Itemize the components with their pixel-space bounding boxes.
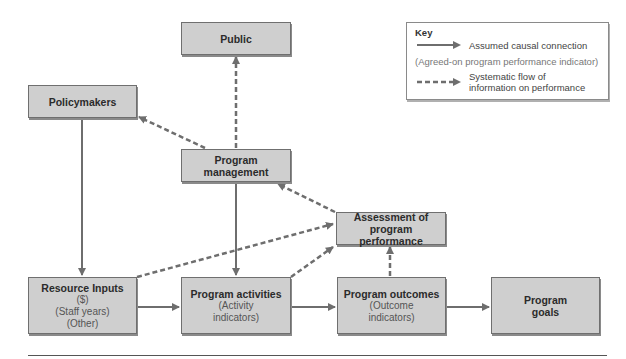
node-activities-title: Program activities xyxy=(190,288,281,300)
node-activities-sub2: indicators) xyxy=(213,312,259,324)
node-assessment: Assessment of program performance xyxy=(336,212,446,245)
dashed-activities-to-assessment xyxy=(291,247,333,277)
node-inputs-sub2: (Staff years) xyxy=(55,306,109,318)
node-resource-inputs: Resource Inputs ($) (Staff years) (Other… xyxy=(28,277,137,334)
node-policymakers: Policymakers xyxy=(28,85,137,118)
node-inputs-title: Resource Inputs xyxy=(41,282,123,294)
node-goals-title2: goals xyxy=(532,306,559,318)
node-program-goals: Program goals xyxy=(491,277,600,334)
node-inputs-sub3: (Other) xyxy=(67,318,99,330)
node-activities-sub1: (Activity xyxy=(219,300,254,312)
node-management-title: Program xyxy=(214,154,257,166)
node-program-management: Program management xyxy=(181,149,291,182)
node-outcomes-sub1: (Outcome xyxy=(370,300,414,312)
legend-indicator-label: (Agreed-on program performance indicator… xyxy=(415,56,600,67)
node-assessment-title: Assessment of xyxy=(354,211,429,223)
legend-key: Key Assumed causal connection (Agreed-on… xyxy=(406,22,609,100)
solid-arrow-icon xyxy=(415,40,463,50)
bottom-divider xyxy=(28,355,607,356)
node-outcomes-sub2: indicators) xyxy=(368,312,414,324)
node-public-title: Public xyxy=(220,33,252,45)
legend-title: Key xyxy=(415,27,600,38)
node-public: Public xyxy=(181,22,291,55)
legend-solid-label: Assumed causal connection xyxy=(469,40,587,51)
node-program-activities: Program activities (Activity indicators) xyxy=(181,277,291,334)
dashed-arrow-icon xyxy=(415,77,463,87)
dashed-assessment-to-management xyxy=(278,184,335,212)
dashed-management-to-policymakers xyxy=(139,117,205,148)
node-inputs-sub1: ($) xyxy=(76,294,88,306)
node-policymakers-title: Policymakers xyxy=(49,96,117,108)
legend-dashed-label-1: Systematic flow of xyxy=(469,71,585,82)
node-goals-title: Program xyxy=(524,294,567,306)
node-outcomes-title: Program outcomes xyxy=(344,288,440,300)
legend-dashed-label-2: information on performance xyxy=(469,82,585,93)
node-assessment-title2: program performance xyxy=(337,223,445,247)
node-management-title2: management xyxy=(204,166,269,178)
legend-row-solid: Assumed causal connection xyxy=(415,38,600,52)
legend-row-dashed: Systematic flow of information on perfor… xyxy=(415,70,600,94)
node-program-outcomes: Program outcomes (Outcome indicators) xyxy=(337,277,446,334)
